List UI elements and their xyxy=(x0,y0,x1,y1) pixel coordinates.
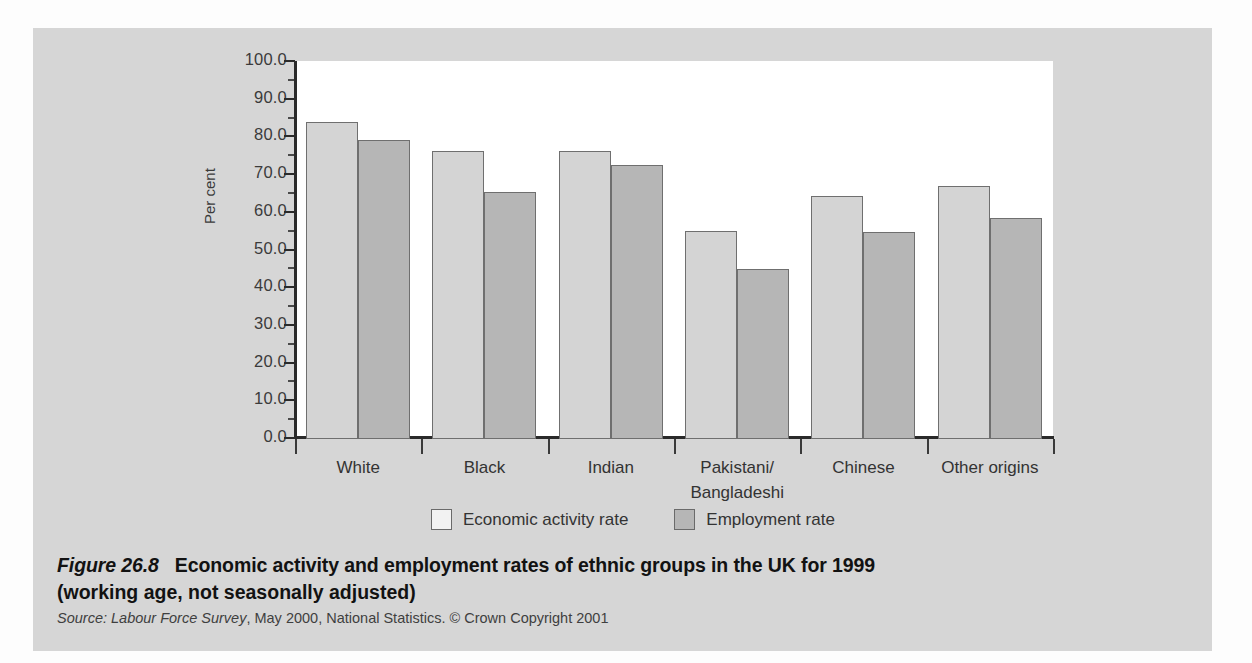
figure-number: Figure 26.8 xyxy=(57,554,159,576)
x-axis-label: Pakistani/Bangladeshi xyxy=(674,455,800,505)
bar-group xyxy=(421,61,547,439)
bar-group xyxy=(295,61,421,439)
x-axis-label-line1: Indian xyxy=(548,455,674,480)
figure-caption: Figure 26.8 Economic activity and employ… xyxy=(57,552,1187,626)
y-axis-tick-labels: 100.090.080.070.060.050.040.030.020.010.… xyxy=(215,28,287,478)
bar-economic-activity-rate xyxy=(811,196,863,439)
bar-employment-rate xyxy=(737,269,789,439)
bar-employment-rate xyxy=(358,140,410,439)
bar-group xyxy=(800,61,926,439)
y-axis-tick-label: 80.0 xyxy=(223,125,287,144)
y-axis-tick-label: 100.0 xyxy=(223,50,287,69)
caption-title-line1: Figure 26.8 Economic activity and employ… xyxy=(57,552,1187,579)
bar-economic-activity-rate xyxy=(938,186,990,439)
bar-economic-activity-rate xyxy=(685,231,737,439)
x-axis-label-line1: Black xyxy=(421,455,547,480)
chart-legend: Economic activity rateEmployment rate xyxy=(431,509,835,530)
y-axis-tick-label: 50.0 xyxy=(223,239,287,258)
bar-group xyxy=(927,61,1053,439)
x-axis-label: Black xyxy=(421,455,547,480)
legend-item: Economic activity rate xyxy=(431,509,628,530)
bar-economic-activity-rate xyxy=(306,122,358,439)
legend-swatch-icon xyxy=(674,509,695,530)
caption-title-line2: (working age, not seasonally adjusted) xyxy=(57,579,1187,606)
x-axis-separator xyxy=(548,439,550,454)
x-axis-separator xyxy=(421,439,423,454)
y-axis-tick-label: 70.0 xyxy=(223,163,287,182)
bar-group xyxy=(674,61,800,439)
figure-panel: Per cent 100.090.080.070.060.050.040.030… xyxy=(33,28,1212,651)
bar-employment-rate xyxy=(611,165,663,439)
y-axis-tick-label: 10.0 xyxy=(223,389,287,408)
x-axis-label: Indian xyxy=(548,455,674,480)
x-axis-separator-start xyxy=(295,439,297,454)
legend-label: Employment rate xyxy=(706,510,835,530)
x-axis-label: Other origins xyxy=(927,455,1053,480)
bar-economic-activity-rate xyxy=(559,151,611,439)
legend-label: Economic activity rate xyxy=(463,510,628,530)
source-publication: Labour Force Survey xyxy=(111,610,246,626)
source-line: Source: Labour Force Survey, May 2000, N… xyxy=(57,610,1187,626)
source-label: Source: xyxy=(57,610,107,626)
y-axis-tick-label: 30.0 xyxy=(223,314,287,333)
y-axis-tick-label: 40.0 xyxy=(223,276,287,295)
source-rest: , May 2000, National Statistics. © Crown… xyxy=(246,610,608,626)
y-axis-tick-label: 0.0 xyxy=(223,427,287,446)
x-axis-label-line2: Bangladeshi xyxy=(674,480,800,505)
x-axis-label-line1: Other origins xyxy=(927,455,1053,480)
bar-economic-activity-rate xyxy=(432,151,484,439)
x-axis-separator xyxy=(674,439,676,454)
x-axis-separator xyxy=(927,439,929,454)
legend-item: Employment rate xyxy=(674,509,835,530)
y-axis-tick-label: 90.0 xyxy=(223,88,287,107)
bars-layer xyxy=(295,61,1053,439)
bar-employment-rate xyxy=(484,192,536,439)
legend-swatch-icon xyxy=(431,509,452,530)
x-axis-separator-end xyxy=(1053,439,1055,454)
y-axis-tick-label: 60.0 xyxy=(223,201,287,220)
x-axis-label-line1: White xyxy=(295,455,421,480)
y-axis-tick-label: 20.0 xyxy=(223,352,287,371)
bar-employment-rate xyxy=(863,232,915,439)
caption-title-text1: Economic activity and employment rates o… xyxy=(175,554,875,576)
bar-group xyxy=(548,61,674,439)
x-axis-separator xyxy=(800,439,802,454)
x-axis-label-line1: Chinese xyxy=(800,455,926,480)
x-axis-label-line1: Pakistani/ xyxy=(674,455,800,480)
x-axis-label: White xyxy=(295,455,421,480)
bar-employment-rate xyxy=(990,218,1042,439)
x-axis-label: Chinese xyxy=(800,455,926,480)
